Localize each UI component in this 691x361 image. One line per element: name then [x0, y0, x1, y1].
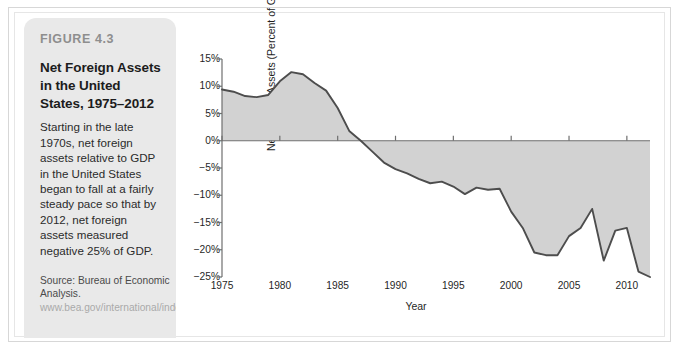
x-axis-tick-label: 2000 — [489, 280, 533, 291]
caption-panel: FIGURE 4.3 Net Foreign Assets in the Uni… — [24, 18, 176, 338]
x-axis-title: Year — [176, 300, 656, 312]
x-axis-tick-label: 1990 — [374, 280, 418, 291]
x-axis-tick-label: 2005 — [547, 280, 591, 291]
chart-area-fill — [222, 72, 650, 277]
x-axis-tick-label: 1985 — [316, 280, 360, 291]
source-prefix: Source: Bureau of Economic Analysis. — [40, 275, 170, 299]
x-axis-tick-label: 1995 — [431, 280, 475, 291]
plot-svg — [176, 18, 656, 318]
source-url[interactable]: www.bea.gov/international/index.htm/iip — [40, 302, 176, 313]
figure-number: FIGURE 4.3 — [40, 32, 162, 46]
x-axis-tick-label: 1975 — [200, 280, 244, 291]
x-axis-tick-label: 1980 — [258, 280, 302, 291]
chart-area: Net Foreign Assets (Percent of GDP) 15%1… — [176, 18, 656, 338]
figure-source: Source: Bureau of Economic Analysis. www… — [40, 274, 170, 314]
figure-description: Starting in the late 1970s, net foreign … — [40, 119, 162, 258]
figure-container: FIGURE 4.3 Net Foreign Assets in the Uni… — [0, 0, 691, 361]
figure-title: Net Foreign Assets in the United States,… — [40, 59, 162, 112]
x-axis-tick-label: 2010 — [605, 280, 649, 291]
x-axis-tick-labels: 19751980198519901995200020052010 — [176, 280, 656, 296]
